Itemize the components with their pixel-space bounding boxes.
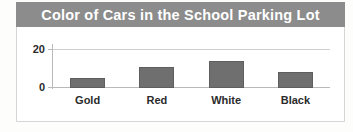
bar-white	[209, 61, 244, 88]
y-axis-label-20: 20	[33, 44, 45, 55]
chart-plot-frame: 20 0 Gold Red White	[16, 27, 345, 122]
x-axis-label-white: White	[211, 94, 241, 106]
y-axis-label-0: 0	[39, 82, 45, 93]
x-axis-label-gold: Gold	[75, 94, 100, 106]
bar-chart-figure: Color of Cars in the School Parking Lot …	[16, 2, 345, 122]
bar-red	[139, 67, 174, 88]
bar-black	[278, 72, 313, 88]
bar-slot-red: Red	[122, 49, 191, 88]
x-axis-label-red: Red	[146, 94, 167, 106]
plot-area: 20 0 Gold Red White	[53, 49, 330, 88]
bar-slot-black: Black	[261, 49, 330, 88]
bar-slot-white: White	[192, 49, 261, 88]
chart-title-bar: Color of Cars in the School Parking Lot	[16, 2, 345, 27]
bar-group: Gold Red White Black	[53, 49, 330, 88]
page-background: are Fiction tion ook as a s a Color of C…	[0, 0, 353, 132]
x-axis-label-black: Black	[281, 94, 310, 106]
bar-slot-gold: Gold	[53, 49, 122, 88]
chart-title: Color of Cars in the School Parking Lot	[41, 7, 320, 23]
bar-gold	[70, 78, 105, 88]
